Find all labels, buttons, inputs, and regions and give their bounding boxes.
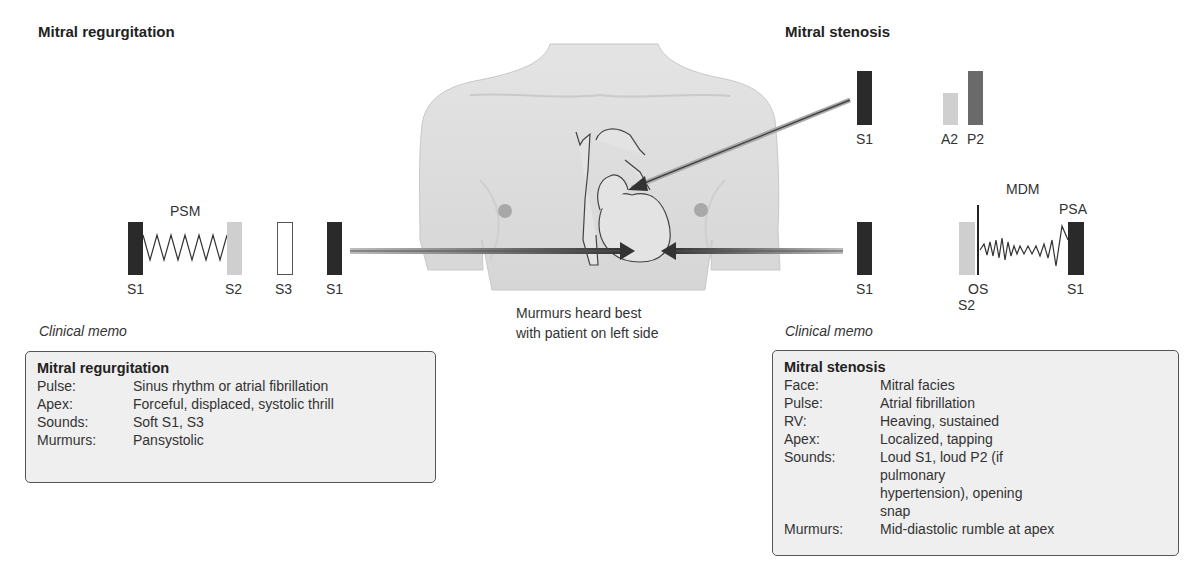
memo-row: Sounds:Soft S1, S3 [37, 413, 435, 431]
memo-row: Pulse:Atrial fibrillation [784, 394, 1178, 412]
mr-s2-label: S2 [225, 281, 242, 297]
memo-row: Murmurs:Mid-diastolic rumble at apex [784, 520, 1178, 538]
ms-top-s1-bar [857, 71, 872, 125]
ms-s1b-label: S1 [1067, 281, 1084, 297]
auscultation-caption: Murmurs heard best with patient on left … [516, 303, 658, 343]
ms-s1-label: S1 [856, 281, 873, 297]
ms-a2-label: A2 [941, 131, 958, 147]
mr-s3-label: S3 [275, 281, 292, 297]
memo-row: Murmurs:Pansystolic [37, 431, 435, 449]
ms-s1-bar [857, 222, 872, 275]
mr-title: Mitral regurgitation [38, 23, 175, 40]
memo-row: Apex:Forceful, displaced, systolic thril… [37, 395, 435, 413]
mr-s1-bar [128, 222, 143, 275]
memo-row: Apex:Localized, tapping [784, 430, 1178, 448]
ms-p2-label: P2 [967, 131, 984, 147]
mdm-label: MDM [1006, 181, 1039, 197]
memo-row: Pulse:Sinus rhythm or atrial fibrillatio… [37, 377, 435, 395]
mr-clinical-memo: Mitral regurgitation Pulse:Sinus rhythm … [25, 351, 436, 483]
mr-s1b-bar [327, 222, 342, 275]
ms-top-s1-label: S1 [856, 131, 873, 147]
psm-label: PSM [170, 203, 200, 219]
ms-s2-bar [959, 222, 975, 275]
ms-os-label: OS [968, 281, 988, 297]
memo-row: Face:Mitral facies [784, 376, 1178, 394]
psa-label: PSA [1059, 201, 1087, 217]
ms-a2-bar [943, 93, 958, 125]
mr-memo-heading: Clinical memo [39, 323, 127, 339]
ms-memo-heading: Clinical memo [785, 323, 873, 339]
mr-s3-bar [277, 222, 293, 275]
mr-s1b-label: S1 [326, 281, 343, 297]
mr-memo-title: Mitral regurgitation [37, 359, 435, 377]
memo-row: RV:Heaving, sustained [784, 412, 1178, 430]
ms-s1b-bar [1068, 222, 1084, 275]
mdm-murmur-wave [980, 226, 1068, 266]
ms-p2-bar [968, 71, 983, 125]
memo-row: Sounds:Loud S1, loud P2 (if pulmonary hy… [784, 448, 1178, 520]
psm-murmur-wave [143, 235, 227, 260]
mr-s2-bar [227, 222, 242, 275]
ms-title: Mitral stenosis [785, 23, 890, 40]
mr-s1-label: S1 [127, 281, 144, 297]
ms-clinical-memo: Mitral stenosis Face:Mitral facies Pulse… [772, 350, 1179, 556]
ms-memo-title: Mitral stenosis [784, 358, 1178, 376]
ms-s2-label: S2 [958, 297, 975, 313]
